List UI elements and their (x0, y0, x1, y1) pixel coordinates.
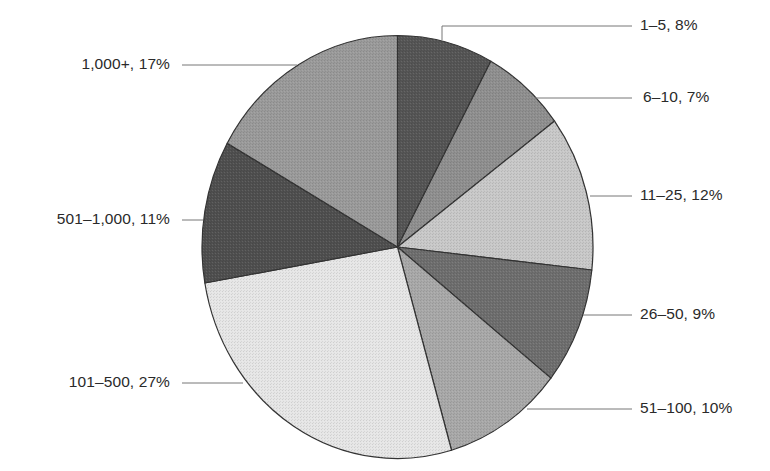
label-6-10: 6–10, 7% (643, 88, 709, 106)
label-11-25: 11–25, 12% (640, 186, 723, 204)
texture-overlay (202, 36, 593, 459)
label-51-100: 51–100, 10% (640, 399, 732, 417)
label-101-500: 101–500, 27% (69, 373, 170, 391)
label-1-5: 1–5, 8% (640, 16, 698, 34)
label-501-1000: 501–1,000, 11% (57, 210, 170, 228)
label-1000-plus: 1,000+, 17% (81, 55, 170, 73)
label-26-50: 26–50, 9% (640, 305, 715, 323)
